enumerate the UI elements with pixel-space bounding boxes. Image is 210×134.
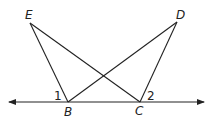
point-label-b: B [64,105,72,119]
segment-dc [140,22,177,102]
point-label-c: C [135,104,144,118]
point-label-e: E [25,8,33,22]
point-label-d: D [176,8,185,22]
angle-label-1: 1 [54,89,62,103]
segment-eb [30,23,68,102]
diagram-canvas: E D B C 1 2 [0,0,210,134]
angle-label-2: 2 [147,89,155,103]
geometry-diagram: E D B C 1 2 [0,0,210,134]
